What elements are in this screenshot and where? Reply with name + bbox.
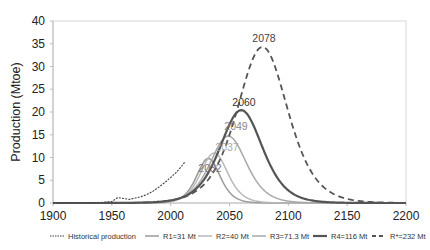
x-tick-label: 1900 xyxy=(40,209,67,223)
y-axis-title: Production (Mtoe) xyxy=(9,62,23,161)
legend-label: R4=116 Mt xyxy=(331,232,368,241)
peak-year-label: 2032 xyxy=(198,162,222,174)
x-tick-label: 1950 xyxy=(98,209,125,223)
y-tick-label: 40 xyxy=(32,14,46,28)
series-line-historical xyxy=(53,162,185,203)
peak-year-label: 2078 xyxy=(252,32,276,44)
y-tick-label: 20 xyxy=(32,105,46,119)
y-tick-label: 15 xyxy=(32,128,46,142)
legend-item: R4=116 Mt xyxy=(313,232,368,241)
legend-item: R2=40 Mt xyxy=(198,232,250,241)
legend-label: R*=232 Mt xyxy=(390,232,427,241)
legend-item: R3=71.3 Mt xyxy=(252,232,310,241)
legend-label: R3=71.3 Mt xyxy=(270,232,310,241)
y-tick-label: 30 xyxy=(32,60,46,74)
y-axis-ticks: 0510152025303540 xyxy=(32,14,53,210)
legend-item: Historical production xyxy=(50,232,136,241)
legend-item: R1=31 Mt xyxy=(145,232,197,241)
peak-year-label: 2060 xyxy=(232,96,256,108)
x-tick-label: 2150 xyxy=(334,209,361,223)
y-tick-label: 0 xyxy=(38,196,45,210)
series-line-r1 xyxy=(53,158,406,203)
legend-label: Historical production xyxy=(68,232,136,241)
legend: Historical productionR1=31 MtR2=40 MtR3=… xyxy=(50,232,427,241)
peak-year-label: 2037 xyxy=(215,141,239,153)
x-tick-label: 2000 xyxy=(157,209,184,223)
y-tick-label: 10 xyxy=(32,151,46,165)
x-tick-label: 2050 xyxy=(216,209,243,223)
y-tick-label: 25 xyxy=(32,82,46,96)
peak-year-label: 2049 xyxy=(224,120,248,132)
x-axis-ticks: 1900195020002050210021502200 xyxy=(40,203,420,223)
y-tick-label: 5 xyxy=(38,173,45,187)
legend-label: R1=31 Mt xyxy=(163,232,197,241)
legend-item: R*=232 Mt xyxy=(372,232,427,241)
production-chart: 0510152025303540 19001950200020502100215… xyxy=(0,0,430,250)
x-tick-label: 2200 xyxy=(393,209,420,223)
legend-label: R2=40 Mt xyxy=(216,232,250,241)
series-line-r2 xyxy=(53,153,406,203)
x-tick-label: 2100 xyxy=(275,209,302,223)
y-tick-label: 35 xyxy=(32,37,46,51)
